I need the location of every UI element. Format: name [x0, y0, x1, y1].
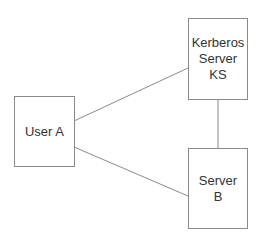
node-server-b: Server B — [188, 148, 248, 229]
node-label: Server — [199, 173, 237, 189]
node-label: Server — [192, 51, 245, 67]
edge-user-a-to-server-b — [74, 147, 188, 196]
edge-user-a-to-kerberos — [74, 68, 188, 121]
node-kerberos-server: Kerberos Server KS — [188, 18, 248, 100]
node-label: B — [199, 189, 237, 205]
node-label: User A — [25, 124, 64, 140]
node-label: KS — [192, 67, 245, 83]
node-user-a: User A — [14, 96, 75, 167]
node-label: Kerberos — [192, 35, 245, 51]
